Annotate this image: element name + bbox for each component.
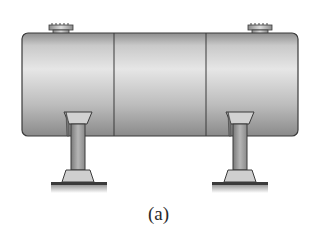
pressure-vessel-diagram xyxy=(0,0,317,234)
figure-caption: (a) xyxy=(0,203,317,225)
vessel-shell xyxy=(22,33,298,136)
nozzle-left xyxy=(49,23,73,34)
nozzle-right xyxy=(248,23,272,34)
